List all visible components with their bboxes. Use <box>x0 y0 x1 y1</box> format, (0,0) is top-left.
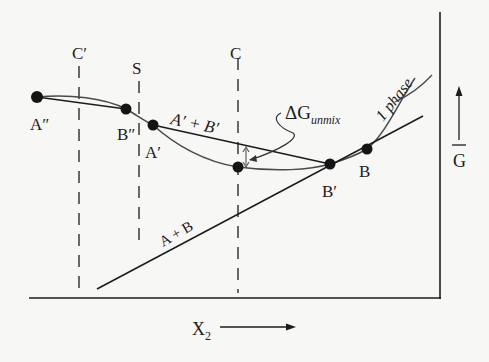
label-g: G <box>453 151 466 171</box>
x2-arrowhead <box>286 324 296 331</box>
label-x2: X2 <box>192 319 211 343</box>
label-delta-g-unmix: ΔGunmix <box>285 102 341 127</box>
point-b-double-prime <box>121 104 132 115</box>
label-a-prime: A′ <box>145 143 161 162</box>
pointer-arrowhead <box>249 155 257 162</box>
label-b: B <box>359 162 370 181</box>
point-a-prime <box>148 120 159 131</box>
g-arrowhead <box>456 86 463 96</box>
tangent-a-b <box>97 116 423 289</box>
point-a-double-prime <box>31 91 43 103</box>
label-a-double-prime: A″ <box>30 115 49 134</box>
gibbs-diagram: C′ S C A″ B″ A′ B′ B A′ + B′ A + B 1 pha… <box>0 0 489 362</box>
point-b-prime <box>325 159 336 170</box>
label-c-prime: C′ <box>72 44 87 63</box>
label-a-plus-b: A + B <box>157 218 196 250</box>
point-c-minimum <box>233 162 244 173</box>
free-energy-curve <box>37 78 415 170</box>
label-b-prime: B′ <box>322 182 337 201</box>
label-one-phase: 1 phase <box>372 75 417 125</box>
label-c: C <box>230 44 241 63</box>
point-b <box>362 144 373 155</box>
label-s: S <box>132 59 141 78</box>
label-b-double-prime: B″ <box>117 125 135 144</box>
